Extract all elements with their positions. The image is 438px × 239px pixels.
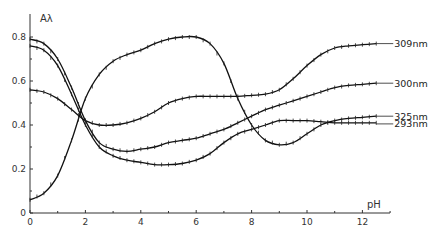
x-tick-label: 0 — [27, 217, 33, 227]
x-tick-label: 8 — [249, 217, 255, 227]
x-axis-title: pH — [367, 199, 381, 210]
axes: 024681012 00.20.40.60.8 Aλ pH — [12, 13, 390, 227]
x-tick-label: 2 — [83, 217, 89, 227]
series-labels: 309nm300nm325nm293nm — [376, 38, 427, 129]
y-tick-label: 0.4 — [12, 120, 27, 130]
y-tick-label: 0.8 — [12, 32, 27, 42]
y-tick-label: 0 — [20, 208, 26, 218]
series-layer — [30, 35, 376, 202]
y-tick-label: 0.2 — [12, 164, 26, 174]
series-label-293nm: 293nm — [394, 118, 427, 129]
absorbance-vs-ph-chart: 024681012 00.20.40.60.8 Aλ pH 309nm300nm… — [0, 0, 438, 239]
x-tick-label: 10 — [301, 217, 313, 227]
y-tick-label: 0.6 — [12, 76, 27, 86]
y-axis-title: Aλ — [40, 13, 53, 24]
series-label-300nm: 300nm — [394, 78, 427, 89]
x-tick-label: 6 — [193, 217, 199, 227]
series-line — [30, 46, 376, 165]
x-tick-label: 12 — [357, 217, 368, 227]
x-tick-label: 4 — [138, 217, 144, 227]
series-label-309nm: 309nm — [394, 38, 427, 49]
series-293nm — [30, 44, 376, 167]
